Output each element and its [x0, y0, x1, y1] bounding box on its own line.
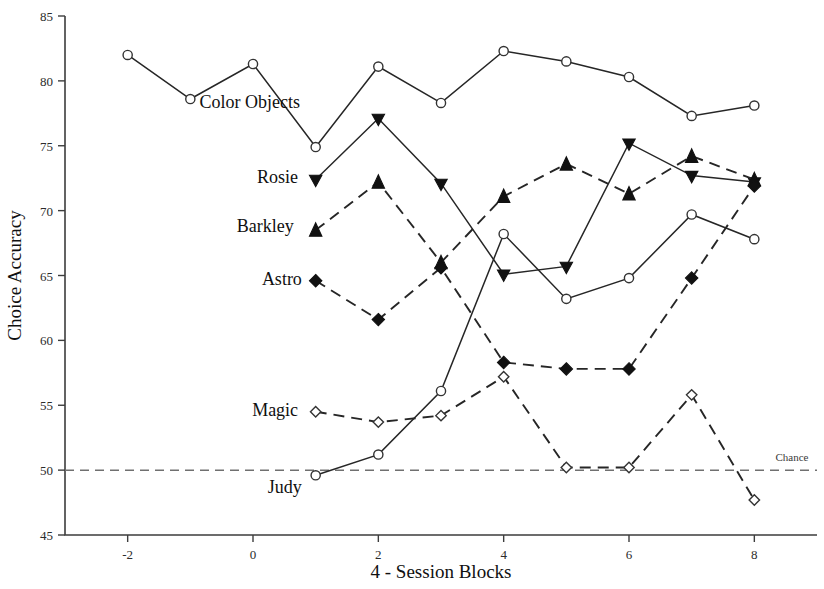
x-tick-label: 8 [751, 547, 758, 562]
marker-open-circle [311, 471, 320, 480]
marker-open-circle [624, 72, 633, 81]
marker-open-circle [123, 50, 132, 59]
series-label-barkley: Barkley [237, 216, 294, 236]
y-tick-label: 50 [40, 463, 53, 478]
marker-open-diamond [749, 495, 759, 505]
marker-open-circle [750, 101, 759, 110]
y-tick-label: 65 [40, 269, 53, 284]
marker-up-triangle [309, 223, 321, 236]
x-tick-label: 2 [375, 547, 382, 562]
chart-container: 455055606570758085-202468Choice Accuracy… [0, 0, 824, 589]
y-tick-label: 70 [40, 204, 53, 219]
marker-up-triangle [560, 157, 572, 170]
series-label-magic: Magic [252, 400, 298, 420]
marker-down-triangle [497, 270, 509, 281]
marker-open-circle [624, 273, 633, 282]
marker-filled-diamond [560, 363, 572, 375]
marker-open-circle [750, 235, 759, 244]
y-tick-label: 55 [40, 398, 53, 413]
marker-open-diamond [373, 417, 383, 427]
y-tick-label: 85 [40, 9, 53, 24]
marker-open-circle [436, 386, 445, 395]
marker-up-triangle [497, 189, 509, 202]
marker-open-circle [248, 59, 257, 68]
y-tick-label: 45 [40, 528, 53, 543]
marker-open-circle [186, 94, 195, 103]
series-label-color-objects: Color Objects [200, 92, 301, 112]
series-label-judy: Judy [268, 477, 302, 497]
marker-open-diamond [686, 390, 696, 400]
x-tick-label: 6 [626, 547, 633, 562]
marker-up-triangle [623, 187, 635, 200]
y-tick-label: 80 [40, 74, 53, 89]
y-axis-title: Choice Accuracy [4, 210, 25, 341]
x-tick-label: -2 [122, 547, 133, 562]
marker-filled-diamond [497, 356, 509, 368]
marker-open-diamond [310, 407, 320, 417]
marker-up-triangle [372, 175, 384, 188]
marker-open-circle [562, 57, 571, 66]
line-chart: 455055606570758085-202468Choice Accuracy… [0, 0, 824, 589]
chance-annotation: Chance [775, 451, 808, 463]
series-label-astro: Astro [262, 269, 302, 289]
marker-down-triangle [685, 171, 697, 182]
y-tick-label: 75 [40, 139, 53, 154]
series-label-rosie: Rosie [257, 167, 298, 187]
y-tick-label: 60 [40, 333, 53, 348]
marker-up-triangle [685, 149, 697, 162]
marker-filled-diamond [309, 274, 321, 286]
marker-open-circle [374, 450, 383, 459]
marker-open-circle [436, 98, 445, 107]
marker-open-diamond [561, 462, 571, 472]
marker-down-triangle [560, 262, 572, 273]
marker-open-circle [311, 142, 320, 151]
marker-open-circle [374, 62, 383, 71]
x-axis-title: 4 - Session Blocks [371, 561, 512, 582]
marker-open-circle [687, 111, 696, 120]
marker-open-circle [499, 46, 508, 55]
series-line-rosie [316, 119, 755, 275]
x-tick-label: 4 [500, 547, 507, 562]
axis-lines [65, 16, 817, 535]
marker-down-triangle [309, 175, 321, 186]
marker-filled-diamond [685, 272, 697, 284]
marker-open-circle [562, 294, 571, 303]
x-tick-label: 0 [250, 547, 257, 562]
marker-open-diamond [436, 410, 446, 420]
marker-open-circle [687, 210, 696, 219]
marker-filled-diamond [623, 363, 635, 375]
series-line-judy [316, 215, 755, 476]
marker-open-circle [499, 229, 508, 238]
